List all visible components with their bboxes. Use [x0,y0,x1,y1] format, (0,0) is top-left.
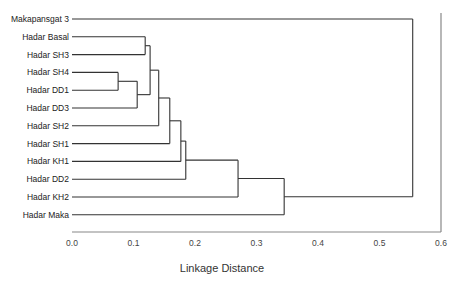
leaf-label: Hadar DD3 [26,103,69,113]
leaf-label: Hadar SH2 [27,121,69,131]
leaf-label: Hadar DD1 [26,85,69,95]
x-tick-label: 0.6 [435,238,447,248]
x-tick-label: 0.3 [251,238,263,248]
leaf-labels: Makapansgat 3Hadar BasalHadar SH3Hadar S… [11,14,69,220]
x-tick-label: 0.4 [312,238,324,248]
branches [72,19,413,215]
x-tick-label: 0.1 [128,238,140,248]
leaf-label: Hadar KH1 [27,156,69,166]
leaf-label: Hadar KH2 [27,192,69,202]
leaf-label: Hadar SH1 [27,139,69,149]
x-tick-label: 0.2 [189,238,201,248]
leaf-label: Makapansgat 3 [11,14,69,24]
leaf-label: Hadar Basal [22,32,69,42]
x-axis-title: Linkage Distance [180,262,264,274]
leaf-label: Hadar DD2 [26,174,69,184]
leaf-label: Hadar SH4 [27,67,69,77]
x-tick-label: 0.5 [374,238,386,248]
x-tick-label: 0.0 [66,238,78,248]
leaf-label: Hadar SH3 [27,50,69,60]
dendrogram-chart: Makapansgat 3Hadar BasalHadar SH3Hadar S… [0,0,460,281]
leaf-label: Hadar Maka [23,210,70,220]
x-tick-labels: 0.00.10.20.30.40.50.6 [66,238,447,248]
